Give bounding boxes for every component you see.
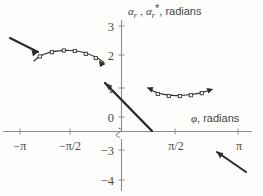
u-left-arrow-icon	[147, 87, 154, 93]
x-tick-label-pi: π	[236, 139, 242, 153]
plot-title-group: αr , αr*, radians	[128, 2, 202, 20]
series-lower-right-branch	[217, 152, 246, 172]
arch-marker-6	[94, 56, 97, 59]
y-tick-label-2: 2	[108, 49, 114, 63]
arch-marker-1	[38, 55, 41, 58]
y-axis-break-mark	[116, 128, 122, 138]
phi-radians-text: , radians	[197, 112, 240, 124]
arch-marker-5	[84, 52, 87, 55]
title-radians-text: , radians	[159, 5, 202, 17]
figure-container: −π −π/2 π/2 π 3 2 1 0 −3 −4 αr , αr*, ra…	[0, 0, 263, 196]
arch-marker-2	[50, 51, 53, 54]
plot-title: αr , αr*, radians	[128, 2, 202, 20]
plot-svg: −π −π/2 π/2 π 3 2 1 0 −3 −4 αr , αr*, ra…	[0, 0, 263, 196]
u-marker-1	[156, 92, 159, 95]
y-tick-label-3: 3	[108, 20, 114, 34]
x-tick-label-neg-half-pi: −π/2	[59, 139, 81, 153]
x-axis-label: φ, radians	[191, 112, 240, 124]
x-axis-label-group: φ, radians	[191, 112, 240, 124]
title-separator: ,	[137, 5, 146, 17]
u-marker-3	[178, 95, 181, 98]
arch-marker-3	[62, 49, 65, 52]
series-arch-branch	[34, 49, 106, 67]
y-tick-label-neg-4: −4	[101, 174, 115, 188]
series-upper-left-branch	[10, 38, 38, 57]
series-u-shaped-branch	[147, 87, 213, 98]
x-tick-label-neg-pi: −π	[14, 139, 27, 153]
arch-marker-4	[73, 49, 76, 52]
u-marker-5	[200, 92, 203, 95]
y-tick-label-0: 0	[108, 111, 114, 125]
y-tick-label-1: 1	[108, 82, 114, 96]
arch-curve	[34, 50, 104, 62]
y-tick-label-neg-3: −3	[101, 144, 114, 158]
x-tick-label-half-pi: π/2	[168, 139, 183, 153]
u-marker-2	[167, 94, 170, 97]
upper-left-segment	[10, 38, 38, 52]
u-marker-4	[189, 94, 192, 97]
